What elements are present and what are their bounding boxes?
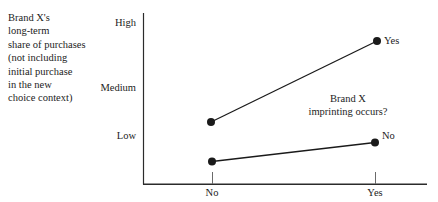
series-label-yes: Yes bbox=[384, 35, 399, 47]
y-tick-label-low: Low bbox=[80, 130, 136, 142]
series-point-no-right bbox=[371, 139, 379, 147]
y-tick-label-medium: Medium bbox=[80, 82, 136, 94]
series-point-no-left bbox=[208, 158, 216, 166]
line-chart-figure: Brand X's long-term share of purchases (… bbox=[0, 0, 438, 202]
series-line-no bbox=[212, 143, 375, 162]
series-point-yes-right bbox=[373, 37, 381, 45]
series-label-no: No bbox=[382, 130, 395, 142]
chart-annotation: Brand X imprinting occurs? bbox=[283, 92, 413, 119]
x-tick-label-no: No bbox=[188, 187, 236, 199]
x-tick-label-yes: Yes bbox=[351, 187, 399, 199]
series-point-yes-left bbox=[207, 118, 215, 126]
y-tick-label-high: High bbox=[80, 17, 136, 29]
